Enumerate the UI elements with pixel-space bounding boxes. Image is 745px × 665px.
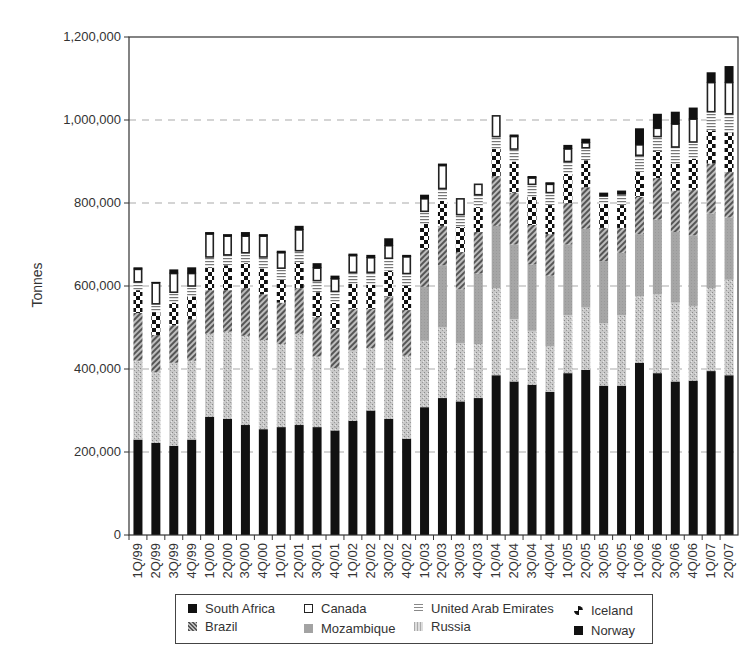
- x-tick-label: 4Q/06: [685, 543, 700, 578]
- segment-iceland: [295, 262, 304, 288]
- legend-item-iceland: Iceland: [574, 603, 633, 618]
- segment-south-africa: [223, 419, 232, 535]
- segment-united-arab-emirates: [402, 274, 411, 286]
- segment-iceland: [707, 130, 716, 163]
- stacked-bar-chart: 0200,000400,000600,000800,0001,000,0001,…: [0, 0, 745, 595]
- segment-south-africa: [151, 443, 160, 535]
- segment-brazil: [653, 178, 662, 220]
- segment-south-africa: [492, 375, 501, 535]
- segment-canada: [295, 230, 302, 251]
- segment-russia: [330, 368, 339, 430]
- segment-norway: [259, 234, 268, 236]
- segment-united-arab-emirates: [671, 147, 680, 164]
- x-tick-label: 3Q/02: [381, 543, 396, 578]
- segment-norway: [545, 182, 554, 184]
- segment-iceland: [169, 303, 178, 326]
- segment-brazil: [456, 252, 465, 289]
- segment-united-arab-emirates: [707, 112, 716, 131]
- x-tick-label: 1Q/06: [631, 543, 646, 578]
- swatch-brazil-icon: [188, 622, 197, 631]
- segment-canada: [636, 145, 643, 155]
- segment-canada: [546, 184, 553, 192]
- segment-russia: [295, 334, 304, 425]
- bar-3Q/04: [528, 176, 537, 535]
- segment-russia: [653, 294, 662, 373]
- segment-russia: [402, 356, 411, 439]
- segment-south-africa: [133, 440, 142, 535]
- bars-group: [133, 66, 733, 535]
- x-tick-label: 4Q/05: [614, 543, 629, 578]
- y-axis-title: Tonnes: [29, 262, 45, 307]
- bar-4Q/00: [259, 234, 268, 535]
- segment-norway: [510, 135, 519, 137]
- segment-norway: [671, 112, 680, 124]
- segment-russia: [492, 288, 501, 375]
- segment-mozambique: [599, 261, 608, 323]
- segment-south-africa: [581, 370, 590, 535]
- bar-4Q/03: [474, 184, 483, 535]
- segment-south-africa: [689, 381, 698, 535]
- x-tick-label: 3Q/05: [596, 543, 611, 578]
- segment-canada: [242, 236, 249, 253]
- segment-brazil: [671, 191, 680, 233]
- segment-united-arab-emirates: [151, 304, 160, 312]
- segment-canada: [224, 236, 231, 255]
- bar-1Q/05: [563, 145, 572, 535]
- segment-brazil: [295, 288, 304, 334]
- segment-united-arab-emirates: [438, 188, 447, 200]
- swatch-canada-icon: [304, 604, 313, 613]
- segment-united-arab-emirates: [635, 155, 644, 172]
- segment-united-arab-emirates: [205, 257, 214, 267]
- segment-russia: [205, 334, 214, 417]
- x-tick-label: 1Q/03: [417, 543, 432, 578]
- segment-mozambique: [581, 229, 590, 308]
- segment-canada: [278, 253, 285, 268]
- bar-4Q/05: [617, 191, 626, 535]
- segment-iceland: [420, 224, 429, 250]
- segment-iceland: [474, 207, 483, 232]
- x-tick-label: 1Q/00: [202, 543, 217, 578]
- segment-united-arab-emirates: [366, 272, 375, 284]
- segment-brazil: [277, 303, 286, 345]
- x-tick-label: 2Q/00: [220, 543, 235, 578]
- segment-brazil: [528, 225, 537, 264]
- x-tick-label: 3Q/00: [237, 543, 252, 578]
- segment-south-africa: [384, 419, 393, 535]
- segment-canada: [152, 283, 159, 304]
- segment-brazil: [438, 226, 447, 265]
- x-tick-label: 3Q/04: [524, 543, 539, 578]
- segment-united-arab-emirates: [474, 195, 483, 207]
- legend-item-russia: Russia: [414, 619, 471, 634]
- segment-iceland: [671, 164, 680, 191]
- bar-1Q/04: [492, 116, 501, 535]
- segment-united-arab-emirates: [295, 251, 304, 263]
- legend-item-norway: Norway: [574, 623, 635, 638]
- segment-russia: [563, 315, 572, 373]
- segment-norway: [528, 176, 537, 178]
- segment-canada: [134, 269, 141, 281]
- segment-canada: [672, 124, 679, 147]
- segment-mozambique: [528, 264, 537, 330]
- segment-united-arab-emirates: [563, 162, 572, 174]
- segment-russia: [348, 350, 357, 421]
- segment-norway: [241, 232, 250, 236]
- segment-mozambique: [474, 274, 483, 345]
- segment-iceland: [330, 303, 339, 329]
- bar-1Q/02: [348, 254, 357, 535]
- segment-norway: [599, 193, 608, 197]
- segment-brazil: [313, 317, 322, 356]
- segment-iceland: [277, 280, 286, 303]
- segment-norway: [438, 164, 447, 166]
- segment-united-arab-emirates: [581, 148, 590, 160]
- bar-4Q/02: [402, 255, 411, 535]
- x-tick-label: 4Q/99: [184, 543, 199, 578]
- segment-brazil: [348, 309, 357, 351]
- segment-south-africa: [277, 427, 286, 535]
- segment-norway: [133, 267, 142, 269]
- segment-united-arab-emirates: [689, 142, 698, 159]
- bar-4Q/01: [330, 276, 339, 535]
- segment-brazil: [707, 164, 716, 214]
- segment-russia: [510, 319, 519, 381]
- bar-1Q/06: [635, 128, 644, 535]
- segment-russia: [725, 280, 734, 375]
